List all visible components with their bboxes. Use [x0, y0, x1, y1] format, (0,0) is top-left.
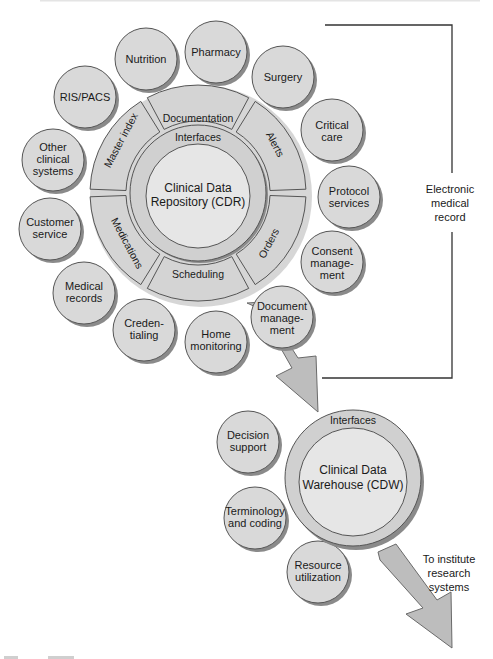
bubble-nutrition[interactable]: Nutrition [115, 28, 180, 93]
svg-text:care: care [321, 131, 342, 143]
svg-text:services: services [329, 197, 370, 209]
ehr-architecture-diagram: Electronic medical record Nutrition Phar… [0, 0, 493, 659]
svg-text:research: research [428, 567, 471, 579]
svg-text:ment: ment [320, 269, 344, 281]
svg-text:Surgery: Surgery [264, 71, 303, 83]
svg-text:clinical: clinical [36, 153, 69, 165]
svg-text:Electronic: Electronic [426, 183, 475, 195]
cdr-interfaces-label: Interfaces [175, 131, 221, 143]
emr-label: Electronic medical record [426, 183, 475, 223]
svg-text:tialing: tialing [130, 329, 159, 341]
svg-text:Nutrition: Nutrition [126, 53, 167, 65]
svg-text:Home: Home [201, 328, 230, 340]
bubble-document-management[interactable]: Document manage- ment [251, 286, 316, 351]
svg-text:utilization: utilization [295, 571, 341, 583]
svg-text:Consent: Consent [312, 245, 353, 257]
svg-text:support: support [230, 441, 267, 453]
bubble-surgery[interactable]: Surgery [252, 46, 317, 111]
svg-text:Resource: Resource [294, 559, 341, 571]
svg-text:Critical: Critical [315, 119, 349, 131]
svg-text:To institute: To institute [423, 553, 476, 565]
cdr-title-line1: Clinical Data [164, 181, 232, 195]
bubble-decision-support[interactable]: Decision support [217, 411, 282, 476]
svg-text:service: service [33, 228, 68, 240]
svg-text:record: record [434, 211, 465, 223]
bubble-home-monitoring[interactable]: Home monitoring [185, 311, 250, 376]
bubble-ris-pacs[interactable]: RIS/PACS [54, 66, 119, 131]
svg-text:Medical: Medical [65, 280, 103, 292]
svg-text:Document: Document [257, 300, 307, 312]
top-edge-line [40, 0, 480, 2]
bubble-customer-service[interactable]: Customer service [19, 198, 84, 263]
svg-text:records: records [66, 292, 103, 304]
bubble-medical-records[interactable]: Medical records [53, 262, 118, 327]
svg-text:Customer: Customer [26, 216, 74, 228]
bubble-pharmacy[interactable]: Pharmacy [185, 21, 250, 86]
cdr-title-line2: Repository (CDR) [151, 195, 246, 209]
svg-text:ment: ment [270, 324, 294, 336]
svg-text:monitoring: monitoring [190, 340, 241, 352]
research-label: To institute research systems [423, 553, 476, 593]
svg-text:Other: Other [39, 141, 67, 153]
svg-text:RIS/PACS: RIS/PACS [60, 91, 111, 103]
svg-text:Pharmacy: Pharmacy [191, 46, 241, 58]
cdw-core[interactable]: Interfaces Clinical Data Warehouse (CDW) [285, 410, 424, 550]
cdw-interfaces-label: Interfaces [330, 414, 376, 426]
svg-text:medical: medical [431, 197, 469, 209]
svg-text:Creden-: Creden- [124, 317, 164, 329]
bubble-credentialing[interactable]: Creden- tialing [113, 299, 178, 364]
cdw-title-line1: Clinical Data [319, 463, 387, 477]
svg-text:Decision: Decision [227, 429, 269, 441]
bubble-resource-utilization[interactable]: Resource utilization [287, 541, 352, 606]
svg-text:Terminology: Terminology [225, 505, 285, 517]
bubble-other-clinical-systems[interactable]: Other clinical systems [22, 129, 87, 194]
svg-text:Protocol: Protocol [329, 185, 369, 197]
cdw-title-line2: Warehouse (CDW) [303, 478, 404, 492]
bubble-consent-management[interactable]: Consent manage- ment [301, 231, 366, 296]
svg-text:manage-: manage- [260, 312, 304, 324]
svg-text:systems: systems [429, 581, 470, 593]
segment-label-scheduling: Scheduling [172, 268, 224, 280]
bubble-critical-care[interactable]: Critical care [301, 99, 366, 164]
svg-text:systems: systems [33, 165, 74, 177]
cdr-core[interactable]: Interfaces Clinical Data Repository (CDR… [130, 125, 268, 263]
bubble-terminology-coding[interactable]: Terminology and coding [224, 487, 289, 552]
bubble-protocol-services[interactable]: Protocol services [318, 166, 383, 231]
segment-label-documentation: Documentation [163, 112, 234, 124]
svg-text:and coding: and coding [228, 517, 282, 529]
svg-text:manage-: manage- [310, 257, 354, 269]
